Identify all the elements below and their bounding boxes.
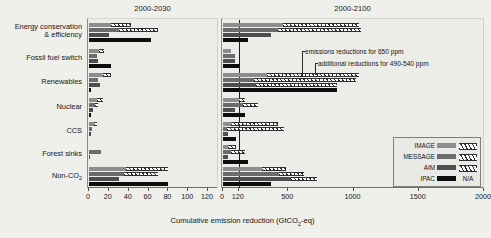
bar-right-5-ipac bbox=[223, 160, 248, 164]
bar-segment-hatched bbox=[231, 150, 245, 154]
bar-segment-solid bbox=[223, 108, 235, 112]
bar-right-3-aim bbox=[223, 108, 235, 112]
bar-segment-hatched bbox=[227, 127, 284, 131]
bar-segment-solid bbox=[223, 33, 271, 37]
x-tick-label-left-2: 40 bbox=[124, 192, 132, 201]
bar-segment-hatched bbox=[239, 98, 246, 102]
bar-segment-hatched bbox=[124, 172, 159, 176]
bar-segment-solid bbox=[223, 88, 337, 92]
bar-segment-solid bbox=[223, 73, 267, 77]
x-tick-right-3 bbox=[353, 188, 354, 191]
legend-swatch-hatched-message bbox=[459, 154, 477, 161]
bar-segment-solid bbox=[223, 54, 235, 58]
y-axis-label-0: Energy conservation& efficiency bbox=[15, 23, 82, 39]
bar-left-3-aim bbox=[89, 108, 93, 112]
bar-segment-solid bbox=[223, 182, 271, 186]
panel-2000-2030 bbox=[87, 18, 218, 188]
bar-right-4-ipac bbox=[223, 137, 236, 141]
annotation-490-540ppm: additional reductions for 490-540 ppm bbox=[318, 60, 429, 67]
y-axis-label-6: Non-CO2 bbox=[52, 172, 82, 183]
bar-left-4-message bbox=[89, 127, 92, 131]
bar-right-4-image bbox=[223, 122, 278, 126]
bar-left-2-message bbox=[89, 78, 98, 82]
bar-left-2-image bbox=[89, 73, 111, 77]
bar-left-3-message bbox=[89, 103, 98, 107]
bar-left-0-aim bbox=[89, 33, 109, 37]
bar-segment-solid bbox=[223, 59, 235, 63]
bar-right-5-aim bbox=[223, 155, 228, 159]
leader-line-490-540ppm-horizontal bbox=[315, 63, 318, 64]
bar-segment-solid bbox=[89, 33, 109, 37]
legend-row-ipac: IPACN/A bbox=[394, 174, 480, 184]
bar-segment-solid bbox=[223, 160, 248, 164]
x-tick-right-0 bbox=[222, 188, 223, 191]
bar-segment-hatched bbox=[256, 83, 337, 87]
bar-segment-solid bbox=[89, 88, 91, 92]
legend-label-ipac: IPAC bbox=[421, 175, 435, 182]
x-tick-left-3 bbox=[148, 188, 149, 191]
legend-swatch-solid-aim bbox=[437, 165, 456, 170]
bar-left-1-message bbox=[89, 54, 97, 58]
panel-left-title: 2000-2030 bbox=[87, 4, 218, 13]
bar-segment-solid bbox=[89, 54, 97, 58]
bar-left-3-image bbox=[89, 98, 103, 102]
bar-left-0-image bbox=[89, 23, 131, 27]
x-tick-left-5 bbox=[187, 188, 188, 191]
x-tick-label-left-0: 0 bbox=[86, 192, 90, 201]
bar-segment-solid bbox=[89, 177, 119, 181]
bar-left-6-image bbox=[89, 167, 168, 171]
y-axis-label-2: Renewables bbox=[41, 78, 82, 86]
bar-right-0-image bbox=[223, 23, 359, 27]
bar-right-6-message bbox=[223, 172, 304, 176]
bar-right-3-message bbox=[223, 103, 258, 107]
legend-label-message: MESSAGE bbox=[403, 153, 435, 160]
bar-segment-solid bbox=[223, 23, 283, 27]
y-axis-label-1: Fossil fuel switch bbox=[26, 54, 82, 62]
legend-label-aim: AIM bbox=[424, 164, 435, 171]
x-tick-label-left-1: 20 bbox=[104, 192, 112, 201]
bar-right-2-message bbox=[223, 78, 356, 82]
bar-segment-hatched bbox=[291, 177, 317, 181]
bar-right-0-message bbox=[223, 28, 361, 32]
bar-segment-solid bbox=[223, 83, 256, 87]
bar-segment-solid bbox=[223, 122, 231, 126]
bar-segment-hatched bbox=[279, 172, 304, 176]
bar-segment-solid bbox=[89, 127, 92, 131]
x-tick-left-1 bbox=[108, 188, 109, 191]
bar-left-0-ipac bbox=[89, 38, 151, 42]
bar-left-5-aim bbox=[89, 155, 90, 159]
bar-segment-solid bbox=[223, 155, 228, 159]
leader-line-490-540ppm-vertical bbox=[315, 63, 316, 75]
legend-swatch-hatched-image bbox=[459, 143, 477, 150]
bar-right-6-image bbox=[223, 167, 286, 171]
x-tick-label-right-3: 1000 bbox=[345, 192, 361, 201]
bar-left-6-aim bbox=[89, 177, 119, 181]
bar-left-3-ipac bbox=[89, 113, 91, 117]
bar-left-1-aim bbox=[89, 59, 98, 63]
bar-left-4-aim bbox=[89, 132, 91, 136]
legend: IMAGEMESSAGEAIMIPACN/A bbox=[393, 137, 481, 187]
bar-segment-hatched bbox=[126, 167, 169, 171]
bar-segment-solid bbox=[89, 108, 93, 112]
bar-right-2-image bbox=[223, 73, 359, 77]
bar-segment-solid bbox=[89, 78, 98, 82]
bar-segment-hatched bbox=[243, 103, 259, 107]
x-tick-label-left-5: 100 bbox=[181, 192, 193, 201]
bar-segment-hatched bbox=[254, 78, 356, 82]
bar-right-0-aim bbox=[223, 33, 271, 37]
bar-segment-solid bbox=[223, 137, 236, 141]
x-tick-label-left-6: 120 bbox=[201, 192, 213, 201]
y-axis-label-4: CCS bbox=[66, 127, 82, 135]
x-tick-left-6 bbox=[207, 188, 208, 191]
x-tick-label-right-5: 2000 bbox=[475, 192, 491, 201]
bar-right-6-ipac bbox=[223, 182, 271, 186]
bar-right-3-ipac bbox=[223, 113, 245, 117]
bar-segment-solid bbox=[223, 64, 240, 68]
bar-segment-solid bbox=[89, 172, 124, 176]
bar-segment-solid bbox=[89, 113, 91, 117]
leader-line-650ppm-vertical bbox=[302, 51, 303, 75]
bar-left-1-image bbox=[89, 49, 104, 53]
x-tick-left-0 bbox=[88, 188, 89, 191]
bar-segment-hatched bbox=[95, 103, 98, 107]
